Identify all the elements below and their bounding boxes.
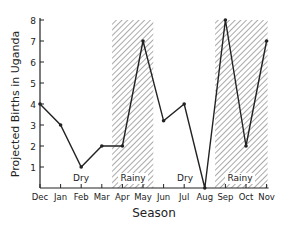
data-point xyxy=(121,144,125,148)
x-axis-label: Season xyxy=(132,206,176,220)
data-point xyxy=(59,123,63,127)
y-tick-label: 4 xyxy=(30,100,36,110)
data-point xyxy=(38,102,42,106)
data-point xyxy=(79,165,83,169)
y-tick-label: 5 xyxy=(30,79,36,89)
x-tick-label: Oct xyxy=(239,192,254,202)
x-tick-label: May xyxy=(134,192,152,202)
season-label-rainy-1: Rainy xyxy=(120,173,146,183)
x-tick-label: Nov xyxy=(258,192,275,202)
data-point xyxy=(265,39,269,43)
data-point xyxy=(244,144,248,148)
y-axis-label: Projected Births in Uganda xyxy=(9,31,22,178)
data-point xyxy=(224,18,228,22)
data-point xyxy=(100,144,104,148)
x-tick-label: Mar xyxy=(94,192,111,202)
rainy-season-shading xyxy=(112,20,268,188)
data-point xyxy=(141,39,145,43)
y-tick-label: 7 xyxy=(30,37,36,47)
x-tick-label: Jan xyxy=(53,192,67,202)
y-tick-label: 6 xyxy=(30,58,36,68)
season-label-dry-1: Dry xyxy=(73,173,90,183)
data-point xyxy=(162,119,166,123)
y-tick-label: 8 xyxy=(30,16,36,26)
rainy-shade-1 xyxy=(112,20,153,188)
data-point xyxy=(203,186,207,190)
x-tick-label: Jul xyxy=(178,192,189,202)
x-tick-label: Aug xyxy=(196,192,213,202)
x-tick-label: Jun xyxy=(156,192,170,202)
line-chart: 12345678DecJanFebMarAprMayJunJulAugSepOc… xyxy=(0,0,288,230)
season-label-rainy-2: Rainy xyxy=(227,173,253,183)
y-tick-label: 3 xyxy=(30,121,36,131)
y-tick-label: 2 xyxy=(30,142,36,152)
x-tick-label: Feb xyxy=(74,192,89,202)
season-label-dry-2: Dry xyxy=(177,173,194,183)
x-tick-label: Apr xyxy=(115,192,130,202)
y-tick-label: 1 xyxy=(30,163,36,173)
data-point xyxy=(182,102,186,106)
x-tick-label: Dec xyxy=(32,192,49,202)
x-tick-label: Sep xyxy=(217,192,233,202)
